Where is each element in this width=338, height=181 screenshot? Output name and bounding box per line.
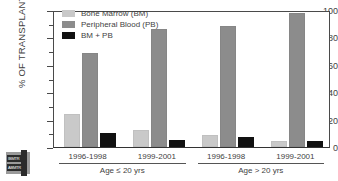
logo-text-ibmtr: IBMTR <box>8 156 19 161</box>
x-axis-group-rule <box>59 163 186 164</box>
bar-pb-1999-2001 <box>151 29 167 147</box>
bar-pb-1996-1998 <box>82 53 98 147</box>
legend-swatch-icon <box>62 10 75 17</box>
bar-bmpb-1999-2001 <box>169 140 185 147</box>
legend-swatch-icon <box>62 21 75 28</box>
bar-bm-1996-1998 <box>202 135 218 147</box>
x-axis-period-label: 1999-2001 <box>260 152 330 161</box>
legend-item: BM + PB <box>62 31 158 40</box>
legend-label: BM + PB <box>81 31 113 40</box>
x-axis-period-label: 1999-2001 <box>122 152 192 161</box>
y-tick-major <box>47 148 53 149</box>
bar-bm-1999-2001 <box>271 141 287 147</box>
legend-item: Peripheral Blood (PB) <box>62 20 158 29</box>
bar-chart-figure: % OF TRANSPLANTS 020406080100 Bone Marro… <box>0 0 338 181</box>
x-axis-period-label: 1996-1998 <box>191 152 261 161</box>
ibmtr-abmtr-logo: IBMTR ABMTR <box>6 150 33 176</box>
x-axis-period-label: 1996-1998 <box>53 152 123 161</box>
y-axis-title: % OF TRANSPLANTS <box>16 0 27 109</box>
legend-label: Bone Marrow (BM) <box>81 9 148 18</box>
legend: Bone Marrow (BM)Peripheral Blood (PB)BM … <box>62 9 158 42</box>
legend-label: Peripheral Blood (PB) <box>81 20 158 29</box>
bar-pb-1996-1998 <box>220 26 236 147</box>
x-axis-group-label: Age ≤ 20 yrs <box>59 166 186 175</box>
legend-swatch-icon <box>62 32 75 39</box>
bar-bm-1999-2001 <box>133 130 149 147</box>
x-axis-group-label: Age > 20 yrs <box>198 166 325 175</box>
x-axis-group-rule <box>198 163 325 164</box>
bar-bmpb-1996-1998 <box>238 137 254 147</box>
legend-item: Bone Marrow (BM) <box>62 9 158 18</box>
bar-bmpb-1996-1998 <box>100 133 116 147</box>
logo-stem <box>21 150 27 176</box>
logo-text-abmtr: ABMTR <box>8 165 21 170</box>
bar-bm-1996-1998 <box>64 114 80 148</box>
bar-bmpb-1999-2001 <box>307 141 323 147</box>
bar-pb-1999-2001 <box>289 13 305 147</box>
